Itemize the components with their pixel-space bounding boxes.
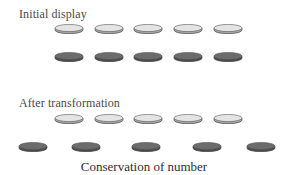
initial-display-label: Initial display <box>19 7 87 22</box>
dark-coin-icon <box>71 142 101 152</box>
dark-coin-icon <box>18 142 48 152</box>
light-coin-icon <box>213 24 243 34</box>
dark-coin-icon <box>94 52 124 62</box>
dark-coin-icon <box>173 52 203 62</box>
light-coin-icon <box>173 24 203 34</box>
after-transformation-label: After transformation <box>19 96 120 111</box>
light-coin-icon <box>173 114 203 124</box>
light-coin-icon <box>54 24 84 34</box>
light-coin-icon <box>94 24 124 34</box>
figure-caption: Conservation of number <box>0 159 288 175</box>
dark-coin-icon <box>192 142 222 152</box>
light-coin-icon <box>133 114 163 124</box>
light-coin-icon <box>94 114 124 124</box>
light-coin-icon <box>213 114 243 124</box>
dark-coin-icon <box>246 142 276 152</box>
dark-coin-icon <box>54 52 84 62</box>
dark-coin-icon <box>131 142 161 152</box>
dark-coin-icon <box>133 52 163 62</box>
light-coin-icon <box>133 24 163 34</box>
dark-coin-icon <box>213 52 243 62</box>
light-coin-icon <box>54 114 84 124</box>
